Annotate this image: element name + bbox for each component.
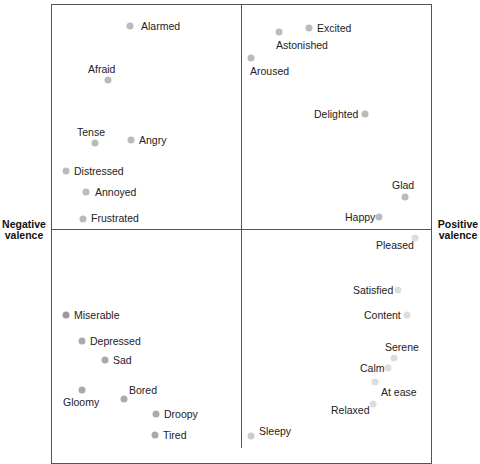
data-point-label: Sleepy bbox=[259, 425, 291, 437]
negative-valence-label: Negative valence bbox=[0, 219, 48, 241]
data-point-dot bbox=[152, 432, 159, 439]
data-point-dot bbox=[83, 189, 90, 196]
data-point-dot bbox=[306, 25, 313, 32]
data-point-label: Pleased bbox=[376, 239, 414, 251]
data-point-label: Distressed bbox=[74, 165, 124, 177]
data-point-dot bbox=[395, 287, 402, 294]
data-point-label: Bored bbox=[129, 384, 157, 396]
data-point-dot bbox=[102, 357, 109, 364]
data-point-label: Sad bbox=[113, 354, 132, 366]
data-point-dot bbox=[63, 312, 70, 319]
data-point-dot bbox=[128, 137, 135, 144]
data-point-dot bbox=[372, 379, 379, 386]
data-point-label: Calm bbox=[360, 362, 385, 374]
data-point-label: Afraid bbox=[88, 63, 115, 75]
data-point-dot bbox=[370, 401, 377, 408]
data-point-dot bbox=[362, 111, 369, 118]
horizontal-axis-divider bbox=[51, 229, 432, 230]
data-point-label: Tense bbox=[77, 126, 105, 138]
vertical-axis-divider bbox=[241, 4, 242, 448]
data-point-dot bbox=[105, 77, 112, 84]
data-point-dot bbox=[80, 216, 87, 223]
data-point-label: Annoyed bbox=[95, 186, 136, 198]
data-point-dot bbox=[376, 214, 383, 221]
data-point-dot bbox=[153, 411, 160, 418]
data-point-label: Delighted bbox=[314, 108, 358, 120]
data-point-label: Tired bbox=[163, 429, 187, 441]
data-point-label: Frustrated bbox=[91, 212, 139, 224]
data-point-dot bbox=[276, 29, 283, 36]
positive-valence-line2: valence bbox=[436, 230, 480, 241]
data-point-label: Excited bbox=[317, 22, 351, 34]
data-point-label: Gloomy bbox=[63, 396, 99, 408]
data-point-dot bbox=[92, 140, 99, 147]
data-point-dot bbox=[385, 365, 392, 372]
data-point-label: Droopy bbox=[164, 408, 198, 420]
data-point-dot bbox=[404, 312, 411, 319]
negative-valence-line2: valence bbox=[0, 230, 48, 241]
data-point-label: Aroused bbox=[250, 65, 289, 77]
positive-valence-label: Positive valence bbox=[436, 219, 480, 241]
data-point-dot bbox=[79, 338, 86, 345]
data-point-label: Depressed bbox=[90, 335, 141, 347]
data-point-dot bbox=[391, 355, 398, 362]
data-point-label: Angry bbox=[139, 134, 166, 146]
data-point-label: Satisfied bbox=[353, 284, 393, 296]
data-point-dot bbox=[79, 387, 86, 394]
data-point-label: Serene bbox=[385, 341, 419, 353]
data-point-label: Glad bbox=[392, 179, 414, 191]
data-point-dot bbox=[248, 55, 255, 62]
data-point-dot bbox=[248, 433, 255, 440]
data-point-label: Astonished bbox=[276, 39, 328, 51]
data-point-label: Happy bbox=[345, 211, 375, 223]
data-point-dot bbox=[127, 23, 134, 30]
data-point-dot bbox=[121, 396, 128, 403]
data-point-label: Alarmed bbox=[141, 20, 180, 32]
data-point-label: At ease bbox=[381, 386, 417, 398]
data-point-dot bbox=[402, 194, 409, 201]
data-point-label: Miserable bbox=[74, 309, 120, 321]
data-point-label: Content bbox=[364, 309, 401, 321]
data-point-dot bbox=[63, 168, 70, 175]
data-point-label: Relaxed bbox=[331, 404, 370, 416]
